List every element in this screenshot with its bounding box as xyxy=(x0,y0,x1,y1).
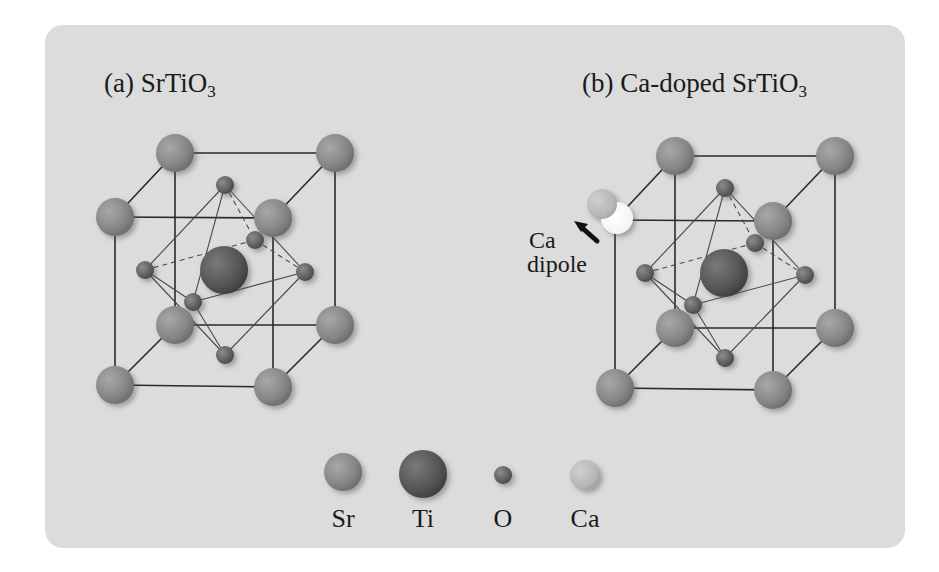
ca-dipole-label: Ca dipole xyxy=(527,228,587,276)
sr-atom xyxy=(816,309,854,347)
sr-atom xyxy=(254,199,292,237)
o-atom xyxy=(716,349,734,367)
o-atom xyxy=(296,263,314,281)
panel-a-title: (a) SrTiO3 xyxy=(104,68,216,102)
sr-atom xyxy=(816,137,854,175)
o-atom xyxy=(246,231,264,249)
o-atom xyxy=(216,176,234,194)
panel-a-subscript: 3 xyxy=(207,82,216,101)
panel-b-formula: Ca-doped SrTiO xyxy=(620,68,798,98)
ca-dipole-label-line1: Ca xyxy=(527,228,587,252)
o-atom xyxy=(216,346,234,364)
o-atom xyxy=(796,266,814,284)
o-atom xyxy=(184,293,202,311)
sr-atom xyxy=(316,134,354,172)
legend-atoms xyxy=(324,450,600,498)
ti-atom xyxy=(700,249,748,297)
panel-b-subscript: 3 xyxy=(799,82,808,101)
ca-dipole-label-line2: dipole xyxy=(527,252,587,276)
o-atom xyxy=(746,234,764,252)
legend-label-ti: Ti xyxy=(393,504,453,534)
legend-label-ca: Ca xyxy=(555,504,615,534)
sr-atom xyxy=(754,202,792,240)
panel-b-title: (b) Ca-doped SrTiO3 xyxy=(582,68,807,102)
legend-label-o: O xyxy=(473,504,533,534)
sr-atom xyxy=(656,137,694,175)
sr-atom xyxy=(754,371,792,409)
panel-a-formula: SrTiO xyxy=(141,68,208,98)
legend-o-atom xyxy=(494,466,512,484)
panel-b-prefix: (b) xyxy=(582,68,620,98)
sr-atom xyxy=(316,306,354,344)
ca-atom xyxy=(587,189,617,219)
sr-atom xyxy=(596,369,634,407)
legend-ti-atom xyxy=(399,450,447,498)
o-atom xyxy=(636,264,654,282)
unit-cell-a xyxy=(96,134,354,406)
o-atom xyxy=(684,296,702,314)
o-atom xyxy=(716,179,734,197)
sr-atom xyxy=(156,306,194,344)
ti-atom xyxy=(200,246,248,294)
sr-atom xyxy=(96,366,134,404)
sr-atom xyxy=(656,309,694,347)
unit-cell-b xyxy=(587,137,854,409)
legend-label-sr: Sr xyxy=(313,504,373,534)
panel-a-prefix: (a) xyxy=(104,68,141,98)
legend-sr-atom xyxy=(324,453,362,491)
sr-atom xyxy=(254,368,292,406)
sr-atom xyxy=(156,134,194,172)
legend-ca-atom xyxy=(570,460,600,490)
sr-atom xyxy=(96,198,134,236)
o-atom xyxy=(136,261,154,279)
